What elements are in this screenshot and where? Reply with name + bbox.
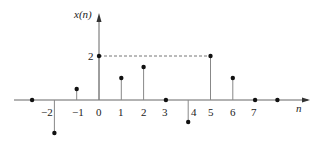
stem-marker [186, 120, 190, 124]
stem-marker [141, 65, 145, 69]
stem-marker [253, 98, 257, 102]
stem-marker [275, 98, 279, 102]
x-tick-label: 1 [118, 106, 124, 118]
stem-marker [231, 76, 235, 80]
stem-marker [30, 98, 34, 102]
stem-marker [164, 98, 168, 102]
stem-marker [52, 131, 56, 135]
x-tick-label: 6 [230, 106, 236, 118]
x-tick-label: 4 [191, 106, 197, 118]
x-tick-label: 2 [141, 106, 147, 118]
stem-marker [75, 87, 79, 91]
stem-marker [208, 54, 212, 58]
x-tick-label: −1 [72, 106, 84, 118]
stem-plot: x(n) n 2 −2 −1 0 1 2 3 4 5 6 7 [0, 0, 317, 157]
x-tick-label: 0 [96, 106, 102, 118]
stem-marker [119, 76, 123, 80]
x-tick-label: 7 [251, 106, 257, 118]
x-tick-label: 3 [162, 106, 168, 118]
stem-series [30, 54, 280, 135]
stem-marker [97, 54, 101, 58]
x-tick-label: 5 [208, 106, 214, 118]
y-tick-2: 2 [88, 50, 94, 62]
y-axis-arrow-icon [97, 13, 102, 22]
x-axis-arrow-icon [302, 98, 310, 103]
x-axis-label: n [296, 102, 302, 114]
y-axis-label: x(n) [73, 8, 92, 21]
x-tick-label: −2 [41, 106, 53, 118]
